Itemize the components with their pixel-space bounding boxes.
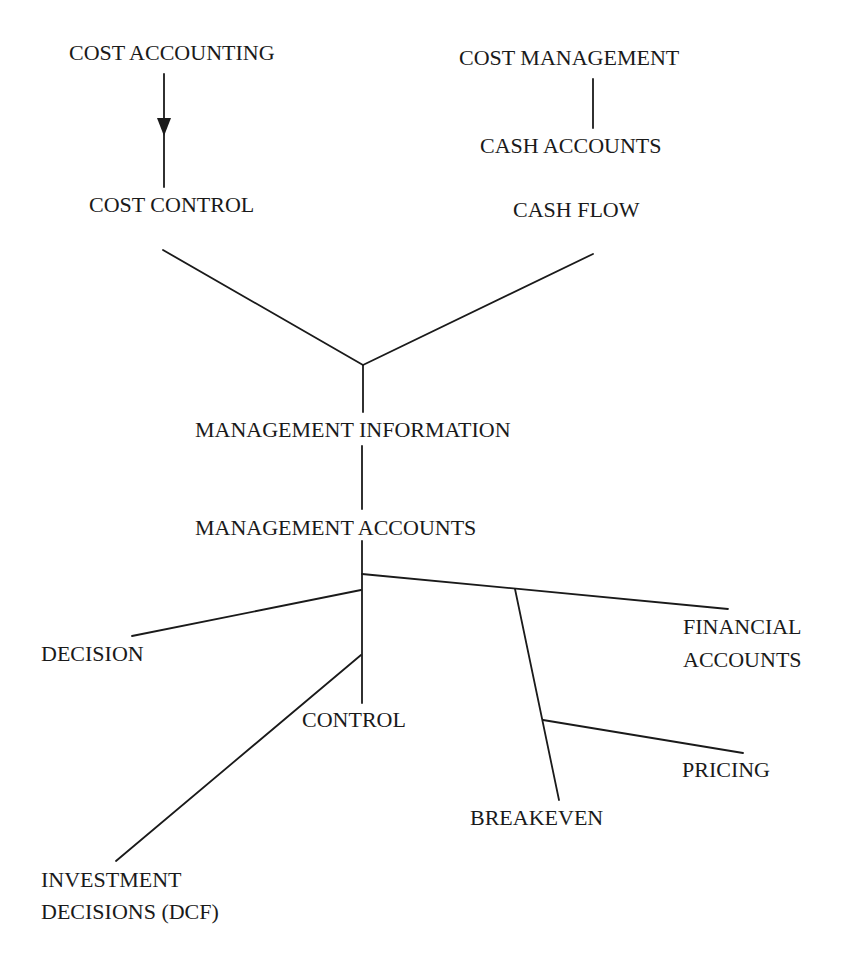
node-management-information: MANAGEMENT INFORMATION [195, 415, 511, 445]
node-decision: DECISION [41, 639, 144, 669]
node-cost-management: COST MANAGEMENT [459, 43, 679, 73]
edge-to-financial-accounts [362, 574, 728, 609]
node-cost-accounting: COST ACCOUNTING [69, 38, 275, 68]
node-cash-flow: CASH FLOW [513, 195, 640, 225]
edge-to-investment-decisions [116, 655, 361, 861]
node-cash-accounts: CASH ACCOUNTS [480, 131, 662, 161]
edge-breakeven-to-pricing [543, 720, 743, 753]
edge-cost-control-to-merge [163, 250, 363, 365]
node-breakeven: BREAKEVEN [470, 803, 603, 833]
arrowhead-icon [157, 118, 171, 136]
edge-to-breakeven [515, 589, 559, 800]
node-investment-line1: INVESTMENT [41, 865, 182, 895]
diagram-connectors [0, 0, 849, 964]
node-cost-control: COST CONTROL [89, 190, 254, 220]
edge-to-decision [132, 590, 361, 636]
edge-cash-flow-to-merge [363, 254, 593, 365]
node-management-accounts: MANAGEMENT ACCOUNTS [195, 513, 476, 543]
node-financial-accounts-line2: ACCOUNTS [683, 645, 802, 675]
node-pricing: PRICING [682, 755, 770, 785]
node-investment-line2: DECISIONS (DCF) [41, 897, 219, 927]
node-control: CONTROL [302, 705, 406, 735]
node-financial-accounts-line1: FINANCIAL [683, 612, 802, 642]
